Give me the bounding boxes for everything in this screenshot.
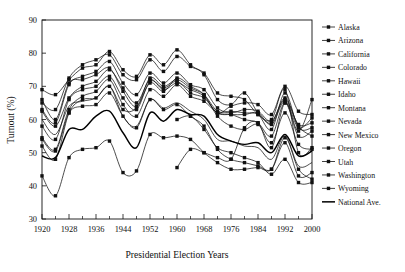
legend-label-new-mexico[interactable]: New Mexico [338,131,379,140]
data-point-marker [162,63,165,66]
data-point-marker [162,81,165,84]
data-point-marker [54,124,57,127]
data-point-marker [229,124,232,127]
legend-marker-icon [327,173,330,176]
legend-label-nevada[interactable]: Nevada [338,117,362,126]
data-point-marker [54,93,57,96]
data-point-marker [121,103,124,106]
legend-label-wyoming[interactable]: Wyoming [338,184,369,193]
data-point-marker [270,113,273,116]
data-point-marker [121,96,124,99]
data-point-marker [135,101,138,104]
data-point-marker [67,98,70,101]
data-point-marker [135,105,138,108]
data-point-marker [40,108,43,111]
data-point-marker [54,118,57,121]
data-point-marker [81,98,84,101]
legend-label-montana[interactable]: Montana [338,104,366,113]
data-point-marker [148,58,151,61]
data-point-marker [297,143,300,146]
data-point-marker [283,88,286,91]
data-point-marker [270,141,273,144]
data-point-marker [243,168,246,171]
x-axis-ticks: 1920192819361944195219601968197619841992… [34,214,321,234]
data-point-marker [310,146,313,149]
data-point-marker [270,119,273,122]
data-point-marker [270,168,273,171]
legend-label-alaska[interactable]: Alaska [338,23,360,32]
data-point-marker [189,65,192,68]
data-point-marker [54,138,57,141]
legend-label-hawaii[interactable]: Hawaii [338,77,361,86]
data-point-marker [162,86,165,89]
data-point-marker [202,71,205,74]
data-point-marker [94,103,97,106]
data-point-marker [256,110,259,113]
data-point-marker [135,78,138,81]
data-point-marker [270,146,273,149]
legend-marker-icon [327,25,330,28]
data-point-marker [81,66,84,69]
y-tick-label: 50 [29,149,37,158]
data-point-marker [283,111,286,114]
data-point-marker [243,161,246,164]
data-point-marker [310,116,313,119]
x-tick-label: 1960 [169,225,186,234]
x-tick-label: 1984 [250,225,268,234]
data-point-marker [229,168,232,171]
series-line [42,109,312,159]
data-point-marker [40,101,43,104]
data-point-marker [283,91,286,94]
data-point-marker [310,178,313,181]
data-point-marker [108,75,111,78]
data-point-marker [256,103,259,106]
data-point-marker [216,91,219,94]
legend-marker-icon [327,160,330,163]
data-point-marker [108,139,111,142]
x-axis-title: Presidential Election Years [125,249,228,260]
legend: AlaskaArizonaCaliforniaColoradoHawaiiIda… [322,23,381,207]
legend-label-oregon[interactable]: Oregon [338,144,361,153]
data-point-marker [67,156,70,159]
data-point-marker [297,134,300,137]
data-point-marker [81,88,84,91]
legend-label-california[interactable]: California [338,50,370,59]
x-tick-label: 1936 [88,225,105,234]
data-point-marker [256,121,259,124]
data-point-marker [283,136,286,139]
legend-label-national-ave[interactable]: National Ave. [338,198,381,207]
y-tick-label: 80 [29,49,37,58]
legend-marker-icon [327,133,330,136]
legend-marker-icon [327,79,330,82]
x-tick-label: 1976 [223,225,240,234]
y-axis-title: Turnout (%) [5,96,17,143]
data-point-marker [297,181,300,184]
data-point-marker [94,96,97,99]
data-point-marker [297,123,300,126]
y-axis-ticks: 30405060708090 [29,16,46,224]
legend-marker-icon [327,52,330,55]
data-point-marker [67,108,70,111]
x-tick-label: 1968 [196,225,213,234]
data-point-marker [256,113,259,116]
legend-label-idaho[interactable]: Idaho [338,90,356,99]
data-point-marker [202,151,205,154]
data-point-marker [148,88,151,91]
legend-label-arizona[interactable]: Arizona [338,36,364,45]
data-point-marker [121,86,124,89]
legend-label-washington[interactable]: Washington [338,171,375,180]
data-point-marker [94,85,97,88]
data-point-marker [216,106,219,109]
data-point-marker [297,110,300,113]
data-point-marker [216,156,219,159]
y-tick-label: 70 [29,82,37,91]
data-point-marker [189,95,192,98]
data-point-marker [162,108,165,111]
data-point-marker [310,113,313,116]
data-point-marker [175,55,178,58]
data-point-marker [121,73,124,76]
legend-label-utah[interactable]: Utah [338,158,353,167]
legend-label-colorado[interactable]: Colorado [338,63,367,72]
data-point-marker [229,105,232,108]
data-point-marker [297,129,300,132]
